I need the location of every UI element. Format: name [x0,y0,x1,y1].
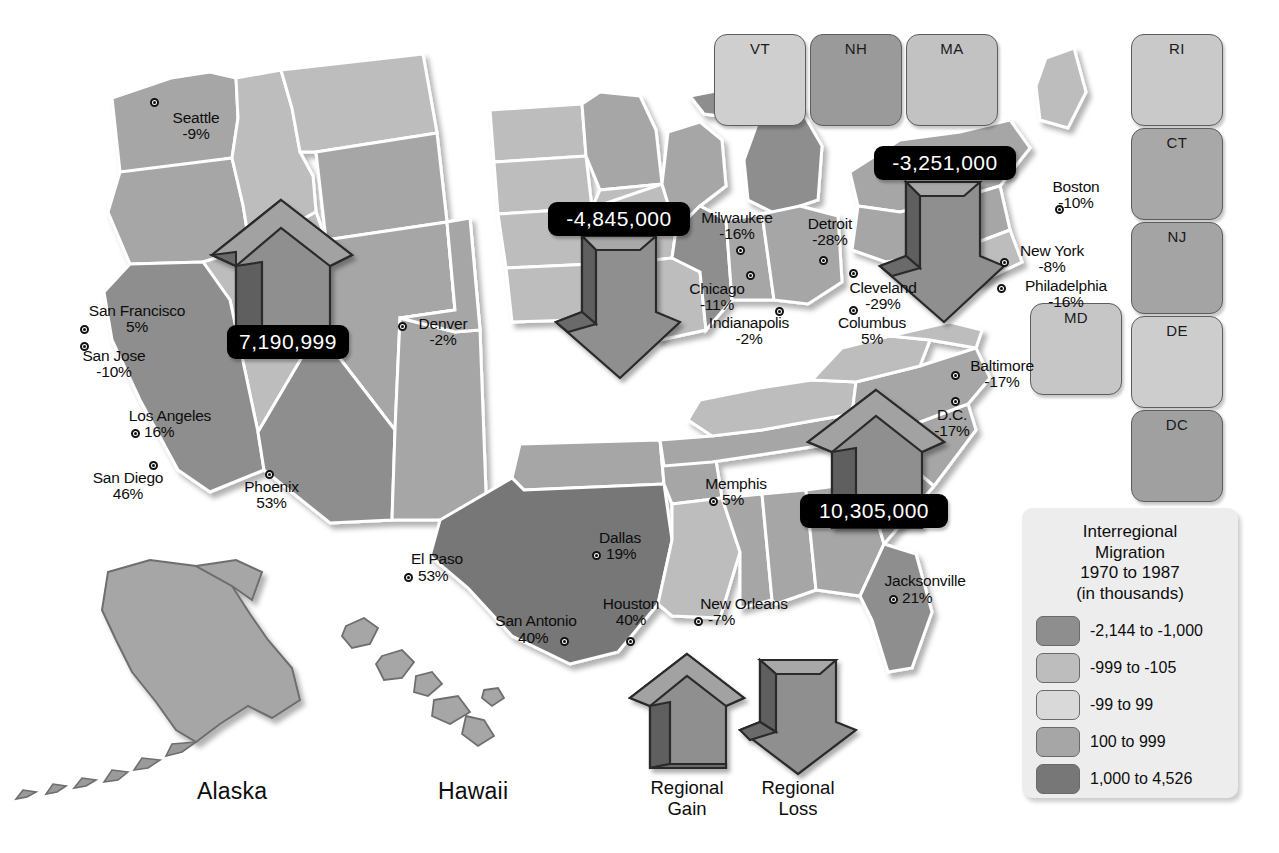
city-label-los-angeles: Los Angeles [110,408,230,424]
legend-label-4: 1,000 to 4,526 [1090,770,1192,788]
city-label-boston: Boston-10% [1036,179,1116,211]
city-dot-el-paso[interactable] [404,573,413,582]
city-label-san-antonio: San Antonio [482,613,590,629]
city-dot-detroit[interactable] [819,256,828,265]
legend-swatch-4 [1036,764,1080,794]
city-label-jacksonville: Jacksonville [871,573,979,589]
legend-row-0[interactable]: -2,144 to -1,000 [1036,616,1203,646]
city-dot-milwaukee[interactable] [736,246,745,255]
city-label-indianapolis: Indianapolis-2% [694,315,804,347]
city-label-houston: Houston40% [594,596,668,628]
city-label-san-antonio-pct: 40% [518,630,548,646]
inset-state-vt-label: VT [715,40,805,57]
map-canvas: VT NH MA RI CT NJ MD DE DC 7,190,999 -4,… [0,0,1279,853]
alaska-shape [102,560,300,742]
city-dot-memphis[interactable] [709,497,718,506]
west-flow-value: 7,190,999 [227,325,349,359]
city-label-dc: D.C.-17% [922,407,982,439]
legend-swatch-0 [1036,616,1080,646]
legend-swatch-2 [1036,690,1080,720]
inset-state-vt[interactable]: VT [714,34,806,126]
city-label-dallas-pct: 19% [606,546,636,562]
legend-row-2[interactable]: -99 to 99 [1036,690,1153,720]
city-label-el-paso: El Paso [400,551,474,567]
city-label-chicago: Chicago-11% [676,281,758,313]
city-label-jacksonville-pct: 21% [902,590,932,606]
inset-state-ct-label: CT [1132,134,1222,151]
city-dot-philadelphia[interactable] [997,284,1006,293]
alaska-label: Alaska [197,778,267,805]
legend-swatch-1 [1036,653,1080,683]
legend-label-0: -2,144 to -1,000 [1090,622,1203,640]
legend-label-3: 100 to 999 [1090,733,1166,751]
city-label-san-diego: San Diego46% [68,470,188,502]
city-label-philadelphia: Philadelphia-16% [1010,278,1122,310]
inset-state-nh[interactable]: NH [810,34,902,126]
city-label-new-york: New York-8% [1012,243,1092,275]
inset-state-dc-label: DC [1132,416,1222,433]
inset-state-de-label: DE [1132,322,1222,339]
inset-state-nj-label: NJ [1132,228,1222,245]
legend-panel: Interregional Migration 1970 to 1987 (in… [1022,508,1238,798]
city-dot-cleveland[interactable] [849,269,858,278]
inset-state-de[interactable]: DE [1131,316,1223,408]
key-arrow-loss [740,660,856,774]
city-dot-new-orleans[interactable] [694,617,703,626]
aleutian-islands [16,742,196,799]
city-label-columbus: Columbus5% [826,315,918,347]
city-label-detroit: Detroit-28% [795,216,865,248]
city-label-seattle: Seattle-9% [157,110,235,142]
city-dot-new-york[interactable] [1000,258,1009,267]
hawaii-shape [342,618,504,746]
city-label-denver: Denver-2% [408,316,478,348]
city-dot-jacksonville[interactable] [889,595,898,604]
inset-state-nj[interactable]: NJ [1131,222,1223,314]
inset-state-ri-label: RI [1132,40,1222,57]
city-label-el-paso-pct: 53% [418,568,448,584]
legend-label-2: -99 to 99 [1090,696,1153,714]
city-label-milwaukee: Milwaukee-16% [684,210,790,242]
city-label-memphis: Memphis [698,476,774,492]
legend-label-1: -999 to -105 [1090,659,1176,677]
legend-row-4[interactable]: 1,000 to 4,526 [1036,764,1192,794]
city-dot-seattle[interactable] [150,98,159,107]
city-label-new-orleans-pct: -7% [708,612,735,628]
inset-state-dc[interactable]: DC [1131,410,1223,502]
inset-state-ct[interactable]: CT [1131,128,1223,220]
inset-state-ma[interactable]: MA [906,34,998,126]
inset-state-md-label: MD [1031,309,1121,326]
legend-title: Interregional Migration 1970 to 1987 (in… [1022,508,1238,605]
city-dot-houston[interactable] [626,637,635,646]
inset-state-nh-label: NH [811,40,901,57]
midwest-flow-value: -4,845,000 [548,202,690,236]
city-label-san-francisco: San Francisco5% [72,303,202,335]
city-label-baltimore: Baltimore-17% [958,358,1046,390]
inset-state-ri[interactable]: RI [1131,34,1223,126]
city-dot-chicago[interactable] [746,271,755,280]
city-dot-los-angeles[interactable] [131,429,140,438]
key-arrow-gain [630,654,744,768]
city-label-new-orleans: New Orleans [692,596,796,612]
city-dot-denver[interactable] [398,322,407,331]
south-flow-value: 10,305,000 [800,494,948,528]
city-label-dallas: Dallas [588,530,652,546]
city-label-san-jose: San Jose-10% [64,348,164,380]
city-dot-dc[interactable] [951,397,960,406]
hawaii-label: Hawaii [438,778,508,805]
city-label-los-angeles-pct: 16% [144,424,174,440]
legend-swatch-3 [1036,727,1080,757]
city-dot-san-antonio[interactable] [560,637,569,646]
inset-state-ma-label: MA [907,40,997,57]
city-dot-dallas[interactable] [592,551,601,560]
northeast-flow-value: -3,251,000 [874,146,1016,180]
regional-loss-label: Regional Loss [733,778,863,819]
legend-row-1[interactable]: -999 to -105 [1036,653,1176,683]
legend-row-3[interactable]: 100 to 999 [1036,727,1166,757]
city-label-phoenix: Phoenix53% [229,479,314,511]
city-label-memphis-pct: 5% [722,492,744,508]
